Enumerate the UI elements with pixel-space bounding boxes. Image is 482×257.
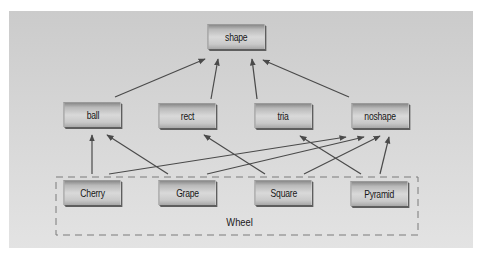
- node-square-label: Square: [270, 187, 296, 199]
- node-tria: tria: [254, 103, 311, 128]
- node-cherry-label: Cherry: [80, 187, 104, 199]
- node-rect: rect: [158, 103, 215, 128]
- wheel-group-label: Wheel: [226, 216, 253, 228]
- node-rect-label: rect: [181, 110, 194, 122]
- edge-noshape-shape: [263, 60, 349, 97]
- node-ball: ball: [63, 102, 120, 127]
- node-cherry: Cherry: [63, 180, 120, 205]
- node-tria-label: tria: [278, 110, 289, 122]
- edge-ball-shape: [115, 59, 205, 97]
- node-noshape: noshape: [351, 103, 408, 128]
- node-square: Square: [254, 180, 311, 205]
- node-shape: shape: [207, 24, 264, 49]
- node-pyramid-label: Pyramid: [365, 188, 395, 200]
- edge-tria-shape: [252, 59, 257, 99]
- node-noshape-label: noshape: [365, 110, 396, 122]
- node-grape: Grape: [158, 180, 215, 205]
- edge-grape-ball: [107, 135, 168, 174]
- edge-pyramid-noshape: [380, 137, 389, 174]
- node-shape-label: shape: [225, 31, 247, 43]
- edge-rect-shape: [211, 59, 218, 99]
- edge-cherry-noshape: [109, 137, 346, 174]
- node-grape-label: Grape: [176, 187, 199, 199]
- edge-pyramid-tria: [300, 136, 361, 174]
- node-ball-label: ball: [86, 109, 98, 121]
- node-pyramid: Pyramid: [350, 181, 407, 206]
